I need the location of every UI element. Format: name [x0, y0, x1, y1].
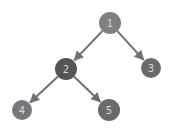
tree-diagram: 12345 — [0, 0, 174, 133]
tree-node-5[interactable]: 5 — [98, 99, 120, 121]
edge-1-2 — [74, 31, 102, 60]
node-label: 4 — [19, 105, 25, 116]
node-label: 3 — [148, 63, 154, 74]
tree-node-1[interactable]: 1 — [99, 12, 121, 34]
edges-layer — [30, 31, 144, 103]
nodes-layer: 12345 — [12, 12, 161, 121]
tree-node-4[interactable]: 4 — [12, 100, 32, 120]
node-label: 2 — [63, 64, 69, 75]
node-label: 1 — [107, 18, 113, 29]
edge-2-4 — [30, 76, 58, 102]
tree-node-2[interactable]: 2 — [55, 58, 77, 80]
node-label: 5 — [106, 105, 112, 116]
edge-1-3 — [117, 31, 143, 60]
tree-node-3[interactable]: 3 — [141, 58, 161, 78]
edge-2-5 — [74, 77, 100, 102]
